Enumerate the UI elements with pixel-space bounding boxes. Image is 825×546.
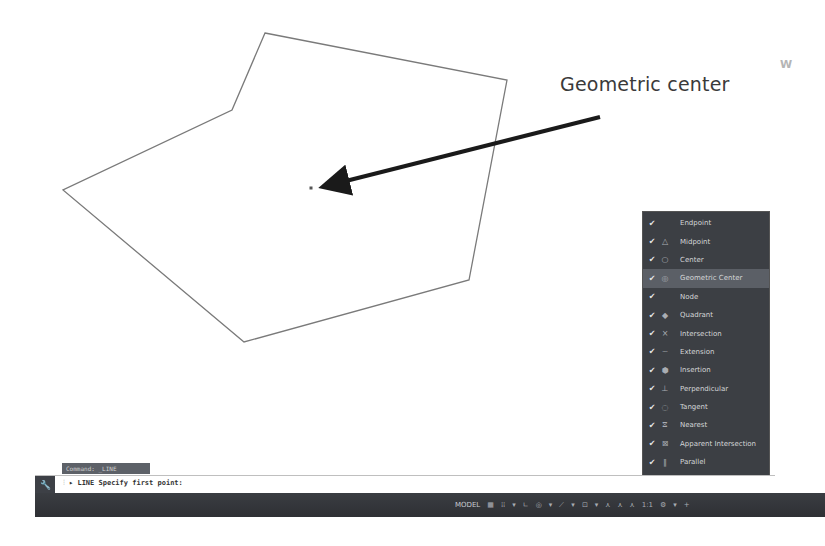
gear-icon[interactable]: ⚙ <box>660 501 666 509</box>
osnap-item-endpoint[interactable]: ✔Endpoint <box>643 214 769 232</box>
osnap-item-parallel[interactable]: ✔∥Parallel <box>643 453 769 471</box>
status-icons: MODEL ▦ ⁞⁞ ▾ ∟ ◎ ▾ ⟋ ▾ ⊡ ▾ ⋏ ⋏ ⋏ 1:1 ⚙ ▾… <box>455 493 690 517</box>
scale-label[interactable]: 1:1 <box>642 501 653 509</box>
polygon-shape[interactable] <box>63 33 507 342</box>
checkmark-icon: ✔ <box>646 403 658 412</box>
annotation-auto-icon[interactable]: ⋏ <box>630 501 635 509</box>
viewcube-icon[interactable]: W <box>780 58 792 71</box>
osnap-item-midpoint[interactable]: ✔△Midpoint <box>643 232 769 250</box>
osnap-glyph-icon: ◌ <box>658 402 672 412</box>
osnap-item-geometric-center[interactable]: ✔◎Geometric Center <box>643 269 769 287</box>
ortho-icon[interactable]: ∟ <box>523 501 529 509</box>
osnap-item-label: Midpoint <box>680 238 710 246</box>
osnap-item-label: Tangent <box>680 403 708 411</box>
callout-label: Geometric center <box>560 73 730 95</box>
osnap-item-label: Nearest <box>680 421 707 429</box>
checkmark-icon: ✔ <box>646 347 658 356</box>
osnap-item-label: Extension <box>680 348 714 356</box>
osnap-glyph-icon: △ <box>658 237 672 247</box>
checkmark-icon: ✔ <box>646 329 658 338</box>
osnap-menu: ✔Endpoint✔△Midpoint✔○Center✔◎Geometric C… <box>642 211 770 495</box>
osnap-item-label: Center <box>680 256 704 264</box>
osnap-item-perpendicular[interactable]: ✔⊥Perpendicular <box>643 380 769 398</box>
osnap-item-label: Intersection <box>680 330 722 338</box>
model-space-button[interactable]: MODEL <box>455 501 480 509</box>
geometric-center-marker[interactable] <box>310 187 313 190</box>
osnap-item-label: Apparent Intersection <box>680 440 756 448</box>
osnap-glyph-icon: × <box>658 329 672 339</box>
osnap-item-center[interactable]: ✔○Center <box>643 251 769 269</box>
checkmark-icon: ✔ <box>646 255 658 264</box>
osnap-item-label: Endpoint <box>680 219 711 227</box>
callout-arrow <box>326 117 600 186</box>
annotation-scale-icon[interactable]: ⋏ <box>605 501 610 509</box>
checkmark-icon: ✔ <box>646 421 658 430</box>
checkmark-icon: ✔ <box>646 384 658 393</box>
command-prompt[interactable]: ▸ LINE Specify first point: <box>69 479 183 487</box>
osnap-item-node[interactable]: ✔Node <box>643 288 769 306</box>
osnap-glyph-icon <box>658 218 672 228</box>
osnap-glyph-icon: ∥ <box>658 457 672 467</box>
osnap-glyph-icon: ⊠ <box>658 439 672 449</box>
osnap-icon[interactable]: ⊡ <box>582 501 588 509</box>
checkmark-icon: ✔ <box>646 439 658 448</box>
checkmark-icon: ✔ <box>646 311 658 320</box>
checkmark-icon: ✔ <box>646 274 658 283</box>
osnap-glyph-icon: ◆ <box>658 310 672 320</box>
command-line[interactable]: 🔧 ⋮ ▸ LINE Specify first point: <box>35 475 775 494</box>
osnap-item-quadrant[interactable]: ✔◆Quadrant <box>643 306 769 324</box>
plus-icon[interactable]: + <box>684 501 690 509</box>
osnap-glyph-icon <box>658 292 672 302</box>
annotation-visibility-icon[interactable]: ⋏ <box>617 501 622 509</box>
grid-icon[interactable]: ▦ <box>487 501 494 509</box>
snap-icon[interactable]: ⁞⁞ <box>501 501 505 509</box>
osnap-item-label: Node <box>680 293 698 301</box>
polar-icon[interactable]: ◎ <box>536 501 542 509</box>
osnap-glyph-icon: ⊥ <box>658 384 672 394</box>
isodraft-dropdown-icon[interactable]: ▾ <box>571 501 575 509</box>
workspace-dropdown-icon[interactable]: ▾ <box>673 501 677 509</box>
checkmark-icon: ✔ <box>646 292 658 301</box>
wrench-icon[interactable]: 🔧 <box>35 476 55 494</box>
osnap-item-label: Insertion <box>680 366 711 374</box>
checkmark-icon: ✔ <box>646 366 658 375</box>
checkmark-icon: ✔ <box>646 219 658 228</box>
osnap-items: ✔Endpoint✔△Midpoint✔○Center✔◎Geometric C… <box>643 214 769 471</box>
osnap-glyph-icon: ┈ <box>658 347 672 357</box>
command-history-tag: Command: _LINE <box>62 463 150 474</box>
polar-dropdown-icon[interactable]: ▾ <box>549 501 553 509</box>
osnap-item-label: Parallel <box>680 458 706 466</box>
osnap-item-nearest[interactable]: ✔⧖Nearest <box>643 416 769 434</box>
osnap-item-label: Geometric Center <box>680 274 742 282</box>
osnap-glyph-icon: ⬢ <box>658 365 672 375</box>
checkmark-icon: ✔ <box>646 458 658 467</box>
osnap-item-extension[interactable]: ✔┈Extension <box>643 343 769 361</box>
snap-dropdown-icon[interactable]: ▾ <box>512 501 516 509</box>
osnap-item-label: Perpendicular <box>680 385 728 393</box>
osnap-item-tangent[interactable]: ✔◌Tangent <box>643 398 769 416</box>
osnap-dropdown-icon[interactable]: ▾ <box>595 501 599 509</box>
status-bar: MODEL ▦ ⁞⁞ ▾ ∟ ◎ ▾ ⟋ ▾ ⊡ ▾ ⋏ ⋏ ⋏ 1:1 ⚙ ▾… <box>35 493 825 517</box>
osnap-glyph-icon: ⧖ <box>658 420 672 430</box>
isodraft-icon[interactable]: ⟋ <box>559 501 564 509</box>
osnap-item-label: Quadrant <box>680 311 713 319</box>
checkmark-icon: ✔ <box>646 237 658 246</box>
command-prompt-text: LINE Specify first point: <box>77 479 182 487</box>
osnap-glyph-icon: ◎ <box>658 273 672 283</box>
osnap-item-intersection[interactable]: ✔×Intersection <box>643 324 769 342</box>
osnap-glyph-icon: ○ <box>658 255 672 265</box>
osnap-item-insertion[interactable]: ✔⬢Insertion <box>643 361 769 379</box>
command-grip-icon[interactable]: ⋮ <box>61 478 67 485</box>
osnap-item-apparent-intersection[interactable]: ✔⊠Apparent Intersection <box>643 435 769 453</box>
